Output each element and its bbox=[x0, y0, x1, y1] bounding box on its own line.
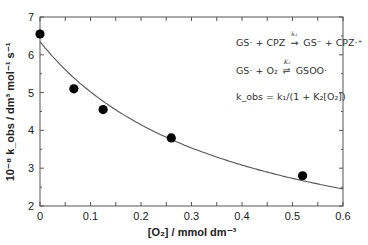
x-tick-label: 0.6 bbox=[335, 210, 350, 222]
x-tick-label: 0.5 bbox=[285, 210, 300, 222]
data-point bbox=[167, 133, 176, 142]
x-axis-label: [O₂] / mmol dm⁻³ bbox=[148, 226, 237, 238]
x-tick-label: 0 bbox=[37, 210, 43, 222]
kobs-formula: k_obs = k₁/(1 + K₂[O₂]) bbox=[236, 91, 346, 102]
y-tick-label: 2 bbox=[28, 200, 34, 212]
y-tick-label: 4 bbox=[28, 124, 34, 136]
fit-curve bbox=[40, 42, 343, 189]
eq1-reactants: GS· + CPZ bbox=[236, 37, 285, 48]
K2-label: K₂ bbox=[284, 58, 291, 65]
x-tick-label: 0.1 bbox=[83, 210, 98, 222]
data-points bbox=[35, 29, 307, 180]
y-tick-label: 5 bbox=[28, 87, 34, 99]
x-tick-label: 0.3 bbox=[184, 210, 199, 222]
y-tick-label: 3 bbox=[28, 162, 34, 174]
y-axis-label: 10⁻⁸ k_obs / dm³ mol⁻¹ s⁻¹ bbox=[4, 42, 16, 181]
eq1-products: GS⁻ + CPZ·⁺ bbox=[303, 37, 362, 48]
eq2-products: GSOO· bbox=[296, 65, 327, 76]
data-point bbox=[35, 29, 44, 38]
forward-arrow-icon: →k₁ bbox=[290, 37, 298, 48]
x-tick-label: 0.4 bbox=[234, 210, 249, 222]
data-point bbox=[99, 105, 108, 114]
equation-electron-transfer: GS· + CPZ →k₁ GS⁻ + CPZ·⁺ bbox=[236, 37, 363, 48]
k1-label: k₁ bbox=[291, 30, 297, 37]
x-tick-label: 0.2 bbox=[133, 210, 148, 222]
data-point bbox=[69, 84, 78, 93]
y-tick-label: 7 bbox=[28, 11, 34, 23]
equation-kobs: k_obs = k₁/(1 + K₂[O₂]) bbox=[236, 91, 346, 102]
data-point bbox=[298, 171, 307, 180]
y-tick-label: 6 bbox=[28, 49, 34, 61]
equilibrium-arrow-icon: ⇌K₂ bbox=[283, 65, 291, 76]
eq2-reactants: GS· + O₂ bbox=[236, 65, 278, 76]
equation-oxygen-equilibrium: GS· + O₂ ⇌K₂ GSOO· bbox=[236, 65, 327, 76]
